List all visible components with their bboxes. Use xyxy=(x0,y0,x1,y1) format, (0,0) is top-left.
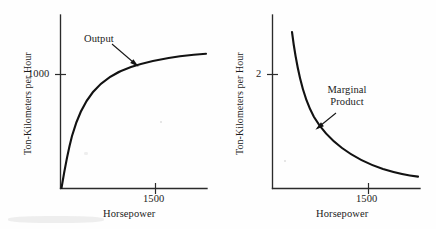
marginal-product-x-tick-label: 1500 xyxy=(356,193,377,205)
output-x-axis-title: Horsepower xyxy=(103,208,155,220)
marginal-product-y-axis-title: Ton-Kilometers per Hour xyxy=(234,52,246,155)
marginal-product-y-tick-label: 2 xyxy=(256,68,261,80)
figure-canvas: Ton-Kilometers per Hour 1000 1500 Horsep… xyxy=(0,0,436,229)
marginal-product-annotation-line2: Product xyxy=(330,96,363,107)
marginal-product-x-axis-title: Horsepower xyxy=(316,208,368,220)
marginal-product-plot-graphic xyxy=(218,0,436,229)
output-panel: Ton-Kilometers per Hour 1000 1500 Horsep… xyxy=(0,0,218,229)
output-y-tick-label: 1000 xyxy=(28,68,49,80)
output-curve xyxy=(62,54,207,188)
output-x-tick-label: 1500 xyxy=(143,193,164,205)
marginal-product-panel: Ton-Kilometers per Hour 2 1500 Horsepowe… xyxy=(218,0,436,229)
marginal-product-curve-annotation: Marginal Product xyxy=(319,84,375,108)
marginal-product-annotation-line1: Marginal xyxy=(327,84,366,95)
output-curve-annotation: Output xyxy=(84,33,114,45)
